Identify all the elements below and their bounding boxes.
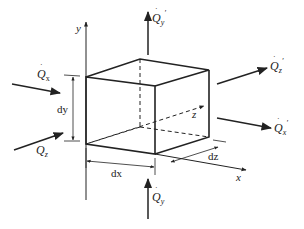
dot-accent: · [155, 4, 158, 13]
z-axis-label: z [191, 108, 197, 120]
heat-flow-qz-out: Qz′ · [217, 52, 284, 84]
y-axis-label: y [75, 22, 81, 34]
dot-accent: · [155, 183, 158, 192]
dz-label: dz [208, 150, 219, 162]
dot-accent: · [40, 60, 43, 69]
dy-dimension: dy [57, 75, 80, 141]
control-volume-diagram: y x z dy [0, 0, 304, 229]
dot-accent: · [273, 52, 276, 61]
diagram-svg: y x z dy [0, 0, 304, 229]
heat-flow-qx-in: Qx · [12, 60, 60, 93]
heat-flow-qy-out: Qy′ · [148, 4, 166, 55]
qy-in-label: Qy [152, 190, 165, 206]
qz-in-label: Qz [36, 143, 49, 159]
qx-in-label: Qx [37, 67, 50, 83]
x-axis-label: x [235, 171, 241, 183]
x-axis: x [155, 154, 246, 183]
y-axis: y [75, 22, 86, 200]
control-volume-cube [86, 59, 209, 154]
dot-accent: · [277, 114, 280, 123]
heat-flow-qz-in: Qz · [14, 133, 63, 159]
dot-accent: · [39, 136, 42, 145]
dy-label: dy [57, 103, 69, 115]
heat-flow-qx-out: Qx′ · [217, 114, 288, 137]
heat-flow-qy-in: Qy · [148, 179, 165, 219]
dx-label: dx [111, 167, 123, 179]
